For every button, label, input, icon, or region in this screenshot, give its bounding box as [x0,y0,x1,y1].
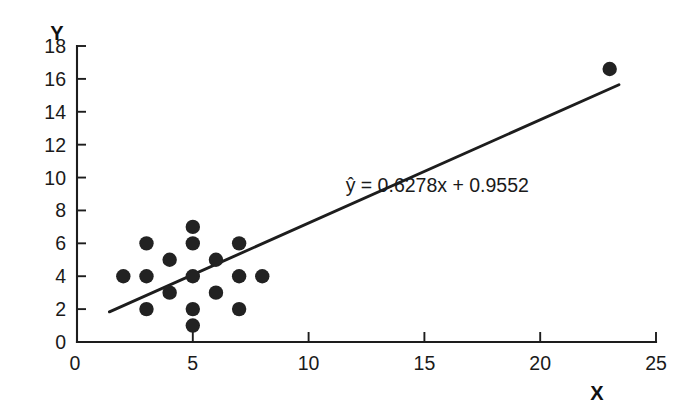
y-tick-label: 10 [44,167,66,189]
data-point [186,269,200,283]
y-axis-tick-labels: 024681012141618 [44,35,66,353]
y-tick-label: 8 [55,199,66,221]
x-tick-label: 0 [70,352,81,374]
x-axis-group: 0510152025 X [70,332,667,404]
y-tick-label: 6 [55,232,66,254]
data-point [116,269,130,283]
data-point [602,62,616,76]
y-tick-label: 2 [55,298,66,320]
plot-canvas: 024681012141618 Y 0510152025 X ŷ = 0.627… [0,0,700,406]
data-point [232,302,246,316]
data-point [139,269,153,283]
y-axis-title: Y [50,22,64,44]
y-axis-group: 024681012141618 Y [44,22,86,353]
data-point [186,302,200,316]
data-point [139,236,153,250]
x-tick-label: 5 [187,352,198,374]
data-point [232,236,246,250]
y-tick-label: 12 [44,134,66,156]
regression-equation: ŷ = 0.6278x + 0.9552 [346,174,529,196]
data-point [186,236,200,250]
scatter-plot-figure: 024681012141618 Y 0510152025 X ŷ = 0.627… [0,0,700,406]
x-tick-label: 10 [298,352,320,374]
data-point [255,269,269,283]
y-tick-label: 0 [55,331,66,353]
data-point [209,285,223,299]
x-tick-label: 15 [414,352,436,374]
annotations-group: ŷ = 0.6278x + 0.9552 [346,174,529,196]
data-point [162,253,176,267]
y-axis-ticks [77,46,86,309]
x-axis-title: X [590,382,604,404]
y-tick-label: 4 [55,265,66,287]
y-tick-label: 14 [44,101,66,123]
data-point [186,220,200,234]
x-axis-ticks [193,332,656,342]
x-tick-label: 20 [529,352,551,374]
x-tick-label: 25 [645,352,667,374]
data-point [139,302,153,316]
data-point [162,285,176,299]
y-tick-label: 16 [44,68,66,90]
data-point [232,269,246,283]
data-point [209,253,223,267]
data-point [186,318,200,332]
x-axis-tick-labels: 0510152025 [70,352,667,374]
